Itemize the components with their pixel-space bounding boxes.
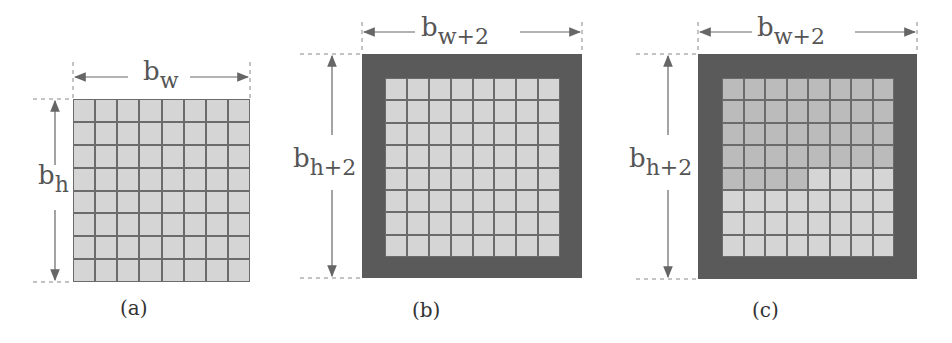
grid-cell xyxy=(163,260,183,281)
grid-cell xyxy=(874,101,894,121)
grid-cell xyxy=(430,191,450,211)
grid-cell xyxy=(539,146,559,166)
grid-cell xyxy=(809,236,829,256)
grid-cell xyxy=(852,79,872,99)
grid-cell xyxy=(408,79,428,99)
grid-cell xyxy=(430,79,450,99)
grid-cell xyxy=(766,236,786,256)
grid-cell xyxy=(185,192,205,213)
grid-cell xyxy=(118,146,138,167)
grid-cell xyxy=(723,146,743,166)
grid-cell xyxy=(430,101,450,121)
grid-cell xyxy=(874,79,894,99)
grid-cell xyxy=(74,260,94,281)
grid-cell xyxy=(474,79,494,99)
grid-cell xyxy=(745,101,765,121)
grid-cell xyxy=(452,236,472,256)
grid-cell xyxy=(474,146,494,166)
grid-cell xyxy=(517,79,537,99)
grid-cell xyxy=(517,146,537,166)
grid-cell xyxy=(452,213,472,233)
grid-cell xyxy=(118,123,138,144)
grid-b xyxy=(385,78,560,257)
grid-cell xyxy=(745,79,765,99)
grid-cell xyxy=(430,169,450,189)
width-label-a: bw xyxy=(143,58,179,84)
grid-cell xyxy=(185,146,205,167)
grid-cell xyxy=(539,101,559,121)
grid-cell xyxy=(745,169,765,189)
grid-cell xyxy=(495,191,515,211)
grid-cell xyxy=(745,191,765,211)
grid-cell xyxy=(788,213,808,233)
grid-cell xyxy=(852,236,872,256)
grid-cell xyxy=(788,236,808,256)
grid-cell xyxy=(474,124,494,144)
grid-cell xyxy=(831,124,851,144)
grid-cell xyxy=(788,146,808,166)
grid-cell xyxy=(495,169,515,189)
grid-cell xyxy=(96,237,116,258)
grid-cell xyxy=(517,169,537,189)
grid-cell xyxy=(185,169,205,190)
grid-cell xyxy=(386,124,406,144)
grid-cell xyxy=(207,192,227,213)
grid-cell xyxy=(452,191,472,211)
grid-cell xyxy=(517,124,537,144)
grid-cell xyxy=(874,124,894,144)
grid-cell xyxy=(723,191,743,211)
grid-cell xyxy=(474,191,494,211)
grid-cell xyxy=(408,101,428,121)
grid-cell xyxy=(140,100,160,121)
grid-cell xyxy=(788,124,808,144)
width-label-b: bw+2 xyxy=(421,14,489,40)
grid-cell xyxy=(539,169,559,189)
grid-cell xyxy=(74,237,94,258)
grid-cell xyxy=(831,101,851,121)
grid-cell xyxy=(386,191,406,211)
grid-cell xyxy=(539,213,559,233)
grid-cell xyxy=(452,79,472,99)
grid-cell xyxy=(163,169,183,190)
grid-cell xyxy=(74,192,94,213)
grid-cell xyxy=(386,169,406,189)
grid-cell xyxy=(96,214,116,235)
caption-c: (c) xyxy=(752,298,779,322)
grid-cell xyxy=(163,237,183,258)
grid-cell xyxy=(140,237,160,258)
grid-cell xyxy=(207,123,227,144)
grid-cell xyxy=(229,169,249,190)
grid-cell xyxy=(874,213,894,233)
grid-cell xyxy=(207,100,227,121)
height-label-a: bh xyxy=(38,162,69,188)
grid-cell xyxy=(474,101,494,121)
grid-cell xyxy=(766,213,786,233)
grid-cell xyxy=(474,169,494,189)
grid-cell xyxy=(74,146,94,167)
grid-cell xyxy=(852,191,872,211)
grid-cell xyxy=(874,169,894,189)
grid-cell xyxy=(229,214,249,235)
grid-cell xyxy=(118,169,138,190)
grid-cell xyxy=(809,213,829,233)
grid-cell xyxy=(430,124,450,144)
grid-cell xyxy=(788,101,808,121)
grid-cell xyxy=(495,79,515,99)
grid-cell xyxy=(517,236,537,256)
grid-cell xyxy=(852,213,872,233)
grid-cell xyxy=(766,79,786,99)
grid-cell xyxy=(495,101,515,121)
grid-cell xyxy=(408,169,428,189)
height-label-c: bh+2 xyxy=(629,145,692,171)
grid-cell xyxy=(386,101,406,121)
grid-cell xyxy=(229,146,249,167)
grid-cell xyxy=(408,124,428,144)
grid-cell xyxy=(745,146,765,166)
grid-cell xyxy=(408,146,428,166)
grid-cell xyxy=(207,237,227,258)
grid-cell xyxy=(74,123,94,144)
grid-cell xyxy=(495,146,515,166)
grid-cell xyxy=(386,213,406,233)
grid-cell xyxy=(430,213,450,233)
grid-cell xyxy=(140,146,160,167)
